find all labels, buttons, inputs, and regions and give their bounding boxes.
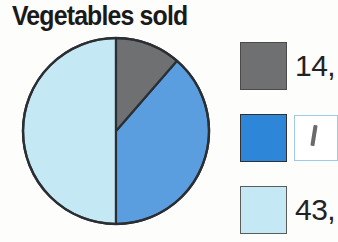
pie-slice-light-blue[interactable] [23, 38, 116, 224]
pie-chart-svg [0, 0, 232, 242]
legend-label-light-blue: 43, [295, 195, 335, 225]
legend-swatch-gray [240, 42, 287, 90]
legend-item-light-blue[interactable]: 43, [240, 184, 335, 236]
legend-item-gray[interactable]: 14, [240, 40, 335, 92]
text-caret-icon [310, 125, 317, 146]
legend: 14, 43, [240, 36, 338, 242]
legend-value-input[interactable] [294, 115, 338, 161]
legend-item-blue[interactable] [240, 112, 338, 164]
legend-swatch-light-blue [240, 186, 287, 234]
pie-chart [0, 0, 232, 242]
legend-swatch-blue [240, 114, 287, 162]
legend-label-gray: 14, [295, 51, 335, 81]
